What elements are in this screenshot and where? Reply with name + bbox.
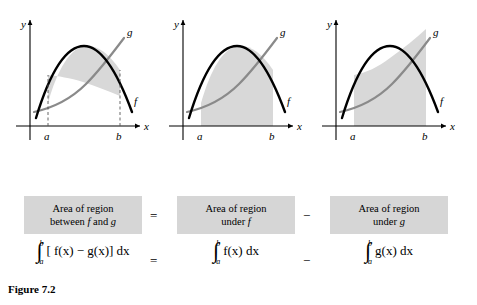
caption-box-under-f: Area of region under f xyxy=(177,196,295,234)
x-axis-label: x xyxy=(449,120,455,132)
curve-g-label: g xyxy=(127,26,133,38)
curve-f-label: f xyxy=(134,95,139,107)
x-axis-label: x xyxy=(296,120,302,132)
integral-limits: ba xyxy=(216,245,220,261)
x-axis-label: x xyxy=(143,120,149,132)
panel-region-between-f-and-g: y x a b g f xyxy=(8,8,158,158)
y-axis-arrow xyxy=(334,20,339,25)
x-axis-arrow xyxy=(288,124,293,129)
caption-line-2: under f xyxy=(221,215,250,228)
y-axis-arrow xyxy=(28,20,33,25)
tick-label-a: a xyxy=(350,130,356,142)
caption-line-2: between f and g xyxy=(50,215,116,228)
integral-under-f: ∫baf(x) dx xyxy=(161,243,311,260)
tick-label-a: a xyxy=(197,130,203,142)
integral-limits: ba xyxy=(39,245,43,261)
integral-body: [ f(x) − g(x)] dx xyxy=(46,243,129,258)
y-axis-label: y xyxy=(326,18,332,30)
operator-minus-captions: − xyxy=(303,208,310,224)
integral-under-g: ∫bag(x) dx xyxy=(314,243,464,260)
tick-label-a: a xyxy=(44,130,50,142)
integral-limits: ba xyxy=(368,245,372,261)
operator-minus-integrals: − xyxy=(303,253,310,269)
caption-line-1: Area of region xyxy=(52,202,113,215)
caption-line-1: Area of region xyxy=(358,202,419,215)
x-axis-arrow xyxy=(441,124,446,129)
curve-g-label: g xyxy=(280,26,286,38)
y-axis-label: y xyxy=(20,18,26,30)
y-axis-label: y xyxy=(173,18,179,30)
y-axis-arrow xyxy=(181,20,186,25)
caption-line-1: Area of region xyxy=(205,202,266,215)
figure-label: Figure 7.2 xyxy=(8,283,55,295)
curve-g-label: g xyxy=(433,26,439,38)
integral-body: g(x) dx xyxy=(375,243,413,258)
caption-row: Area of region between f and g Area of r… xyxy=(0,196,477,238)
integral-row: ∫ba[ f(x) − g(x)] dx ∫baf(x) dx ∫bag(x) … xyxy=(0,243,477,283)
caption-box-between-f-and-g: Area of region between f and g xyxy=(24,196,142,234)
shaded-region xyxy=(48,46,120,103)
curve-f-label: f xyxy=(440,95,445,107)
integral-body: f(x) dx xyxy=(223,243,259,258)
operator-equals-captions: = xyxy=(150,208,157,224)
operator-equals-integrals: = xyxy=(150,253,157,269)
plot-1: y x a b g f xyxy=(8,8,158,158)
panel-region-under-g: y x a b g f xyxy=(314,8,464,158)
tick-label-b: b xyxy=(269,130,275,142)
plot-3: y x a b g f xyxy=(314,8,464,158)
tick-label-b: b xyxy=(422,130,428,142)
plot-2: y x a b g f xyxy=(161,8,311,158)
panel-region-under-f: y x a b g f xyxy=(161,8,311,158)
tick-label-b: b xyxy=(116,130,122,142)
figure-7-2: y x a b g f y x a b g f xyxy=(0,0,477,305)
caption-line-2: under g xyxy=(373,215,405,228)
shaded-region xyxy=(354,29,426,126)
caption-box-under-g: Area of region under g xyxy=(330,196,448,234)
integral-between-f-and-g: ∫ba[ f(x) − g(x)] dx xyxy=(8,243,158,260)
x-axis-arrow xyxy=(135,124,140,129)
curve-f-label: f xyxy=(287,95,292,107)
